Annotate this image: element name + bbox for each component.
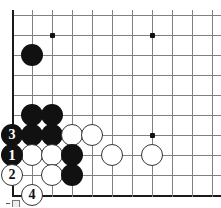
white-stone-c1r7	[21, 144, 43, 166]
black-stone-c3r8	[61, 164, 83, 186]
move-stone-4: 4	[21, 184, 43, 206]
black-stone-c1r2	[21, 44, 43, 66]
white-stone-c4r6	[81, 124, 103, 146]
move-stone-3-label: 3	[9, 128, 16, 142]
move-stone-4-label: 4	[29, 188, 36, 202]
footer-box-icon	[12, 200, 20, 208]
white-stone-c2r7	[41, 144, 63, 166]
white-stone-c2r8	[41, 164, 63, 186]
move-stone-2: 2	[1, 164, 23, 186]
go-board-diagram: 3124	[0, 0, 221, 207]
black-stone-c2r6	[41, 124, 63, 146]
diagram-footer-mark	[6, 200, 20, 207]
move-stone-2-label: 2	[9, 168, 16, 182]
white-stone-c3r6	[61, 124, 83, 146]
stone-layer: 3124	[0, 0, 221, 207]
black-stone-c2r5p	[41, 104, 63, 126]
move-stone-3: 3	[1, 124, 23, 146]
white-stone-c7r7	[141, 144, 163, 166]
black-stone-c1r5	[21, 104, 43, 126]
move-stone-1-label: 1	[8, 147, 16, 162]
white-stone-c5r7	[101, 144, 123, 166]
move-stone-1: 1	[1, 144, 23, 166]
black-stone-c1r6	[21, 124, 43, 146]
black-stone-c3r7	[61, 144, 83, 166]
footer-dash-icon	[6, 203, 10, 205]
